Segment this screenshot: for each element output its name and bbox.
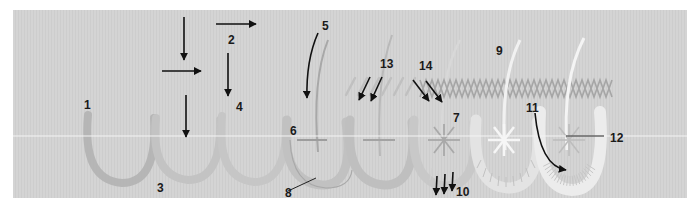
label-3: 3 bbox=[157, 181, 164, 195]
label-12: 12 bbox=[610, 131, 624, 145]
label-6: 6 bbox=[290, 124, 297, 138]
label-5: 5 bbox=[322, 19, 329, 33]
arrow-10c bbox=[452, 172, 453, 191]
stitch-diagram: 1 2 3 4 5 6 7 8 9 10 11 12 13 14 bbox=[0, 0, 699, 207]
label-10: 10 bbox=[456, 185, 470, 199]
label-13: 13 bbox=[380, 57, 394, 71]
label-11: 11 bbox=[526, 101, 539, 115]
fabric-panel bbox=[13, 10, 687, 198]
label-9: 9 bbox=[496, 44, 503, 58]
label-4: 4 bbox=[236, 100, 243, 114]
label-14: 14 bbox=[419, 59, 433, 73]
label-2: 2 bbox=[228, 33, 235, 47]
label-7: 7 bbox=[453, 111, 460, 125]
arrow-10a bbox=[436, 176, 437, 195]
label-1: 1 bbox=[84, 98, 91, 112]
arrow-10b bbox=[444, 174, 445, 194]
label-8: 8 bbox=[285, 186, 292, 200]
